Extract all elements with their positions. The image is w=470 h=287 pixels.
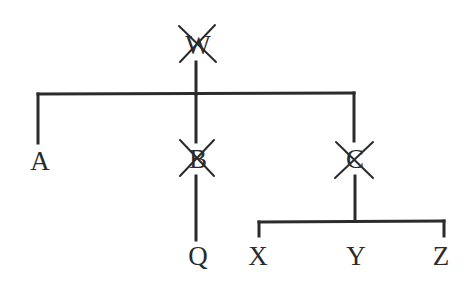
tree-diagram: W A B C Q X Y Z (0, 0, 470, 287)
node-c: C (346, 146, 364, 173)
node-x: X (248, 243, 268, 270)
node-q: Q (188, 243, 208, 270)
tree-edges (0, 0, 470, 287)
node-y: Y (346, 243, 366, 270)
node-b: B (189, 146, 207, 173)
node-a: A (30, 148, 50, 175)
edge-c-bar (259, 221, 444, 222)
node-z: Z (433, 243, 450, 270)
node-w: W (185, 32, 210, 59)
